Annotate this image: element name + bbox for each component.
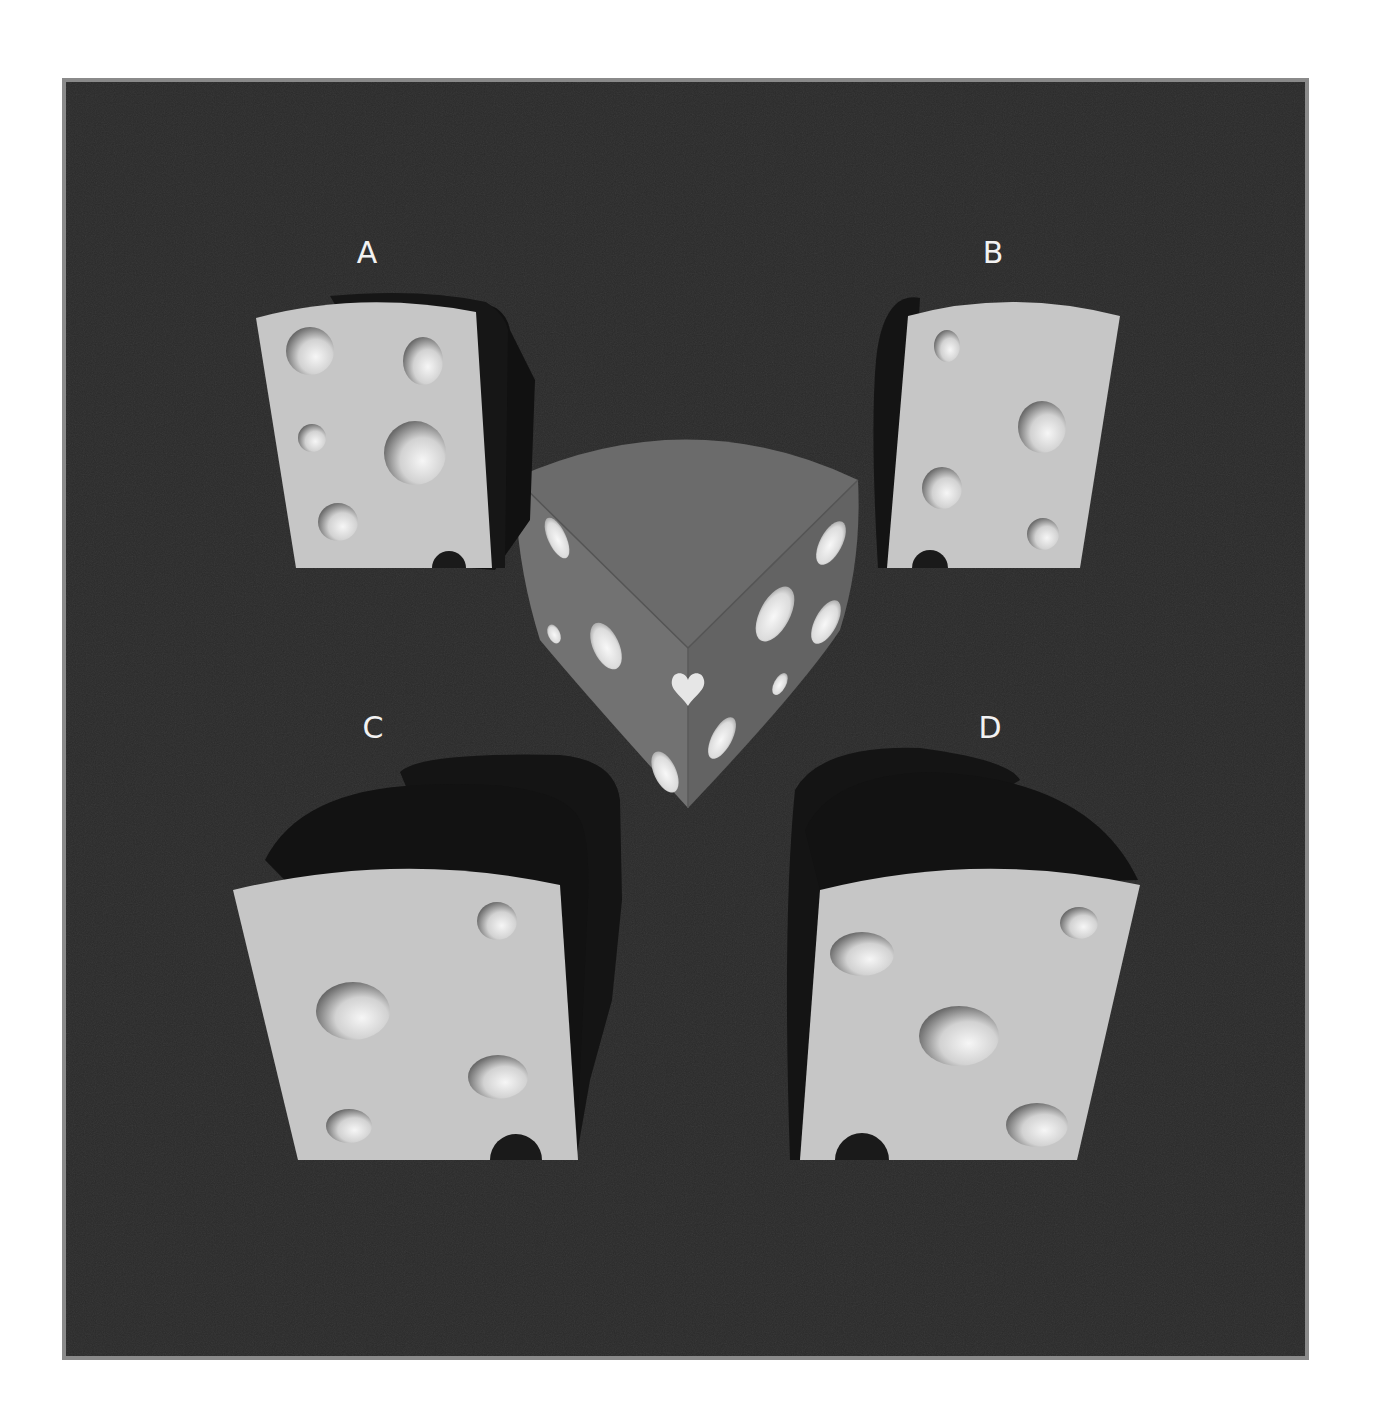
hole-icon (286, 327, 334, 375)
hole-icon (1027, 518, 1059, 550)
hole-icon (316, 982, 390, 1040)
hole-icon (298, 424, 326, 452)
hole-icon (1006, 1103, 1068, 1147)
hole-icon (318, 503, 358, 541)
option-label-c: C (363, 710, 384, 745)
option-label-a: A (357, 235, 378, 270)
hole-icon (830, 932, 894, 976)
hole-icon (1018, 401, 1066, 453)
hole-icon (384, 421, 446, 485)
hole-icon (326, 1109, 372, 1143)
hole-icon (403, 337, 443, 385)
option-label-d: D (978, 710, 1001, 745)
hole-icon (1060, 907, 1098, 939)
hole-icon (477, 902, 517, 940)
cheese-face (887, 302, 1120, 568)
hole-icon (922, 467, 962, 509)
hole-icon (934, 330, 960, 362)
hole-icon (919, 1006, 999, 1066)
option-label-b: B (983, 235, 1004, 270)
hole-icon (468, 1055, 528, 1099)
cheese-puzzle-illustration: A B C D (0, 0, 1383, 1421)
